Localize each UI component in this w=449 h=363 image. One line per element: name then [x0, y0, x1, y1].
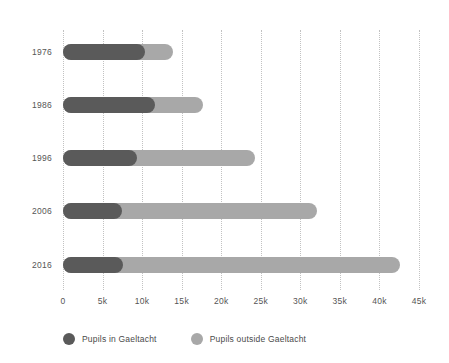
- y-axis-label-1986: 1986: [8, 100, 52, 110]
- x-axis-tick-25k: 25k: [241, 296, 281, 306]
- y-axis-label-1976: 1976: [8, 47, 52, 57]
- bar-row-1976: [63, 44, 419, 60]
- x-axis-tick-30k: 30k: [280, 296, 320, 306]
- gridline-45k: [419, 30, 420, 290]
- legend-label: Pupils outside Gaeltacht: [210, 334, 306, 344]
- legend-label: Pupils in Gaeltacht: [82, 334, 157, 344]
- x-axis-tick-40k: 40k: [359, 296, 399, 306]
- bar-segment-in-gaeltacht-1996: [63, 150, 137, 166]
- bar-segment-in-gaeltacht-1986: [63, 97, 155, 113]
- bar-row-2016: [63, 257, 419, 273]
- bar-row-1986: [63, 97, 419, 113]
- x-axis-tick-20k: 20k: [201, 296, 241, 306]
- x-axis-tick-0: 0: [43, 296, 83, 306]
- circle-dark-icon: [63, 333, 75, 345]
- x-axis-tick-15k: 15k: [162, 296, 202, 306]
- legend-item-outside-gaeltacht[interactable]: Pupils outside Gaeltacht: [191, 333, 306, 345]
- x-axis-tick-45k: 45k: [399, 296, 439, 306]
- bar-segment-in-gaeltacht-2006: [63, 203, 122, 219]
- legend-item-in-gaeltacht[interactable]: Pupils in Gaeltacht: [63, 333, 157, 345]
- bar-chart: 19761986199620062016 05k10k15k20k25k30k3…: [0, 0, 449, 363]
- plot-area: [63, 30, 419, 290]
- legend: Pupils in GaeltachtPupils outside Gaelta…: [63, 331, 306, 347]
- bar-row-1996: [63, 150, 419, 166]
- y-axis-label-2006: 2006: [8, 206, 52, 216]
- x-axis-tick-35k: 35k: [320, 296, 360, 306]
- x-axis-tick-10k: 10k: [122, 296, 162, 306]
- y-axis-category-labels: 19761986199620062016: [0, 30, 52, 290]
- bar-segment-in-gaeltacht-1976: [63, 44, 145, 60]
- y-axis-label-1996: 1996: [8, 153, 52, 163]
- bar-row-2006: [63, 203, 419, 219]
- y-axis-label-2016: 2016: [8, 260, 52, 270]
- x-axis-tick-labels: 05k10k15k20k25k30k35k40k45k: [0, 296, 449, 310]
- bar-segment-in-gaeltacht-2016: [63, 257, 123, 273]
- circle-light-icon: [191, 333, 203, 345]
- x-axis-tick-5k: 5k: [83, 296, 123, 306]
